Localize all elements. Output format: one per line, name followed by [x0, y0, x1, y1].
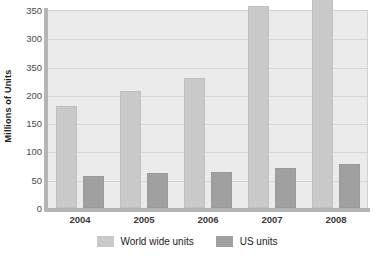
- bar-group: [112, 10, 176, 208]
- y-axis-tick-labels: 050100150200350300350: [16, 0, 46, 212]
- x-axis-tick: 2006: [197, 214, 218, 225]
- bar-chart-figure: Millions of Units 050100150200350300350 …: [0, 0, 374, 256]
- y-axis-tick: 300: [26, 33, 42, 44]
- y-axis-title: Millions of Units: [0, 0, 16, 212]
- bar: [275, 168, 296, 208]
- bar-group: [48, 10, 112, 208]
- y-axis-tick: 350: [26, 5, 42, 16]
- legend-label: World wide units: [121, 236, 194, 247]
- bar: [120, 91, 141, 208]
- y-axis-tick: 50: [31, 174, 42, 185]
- bars-layer: [48, 10, 368, 208]
- legend-item: US units: [216, 236, 278, 247]
- bar: [248, 6, 269, 208]
- y-axis-tick: 350: [26, 61, 42, 72]
- bar-group: [176, 10, 240, 208]
- bar: [312, 0, 333, 208]
- x-axis-tick: 2004: [69, 214, 90, 225]
- x-axis-tick: 2005: [133, 214, 154, 225]
- bar: [339, 164, 360, 208]
- x-axis-tick-labels: 20042005200620072008: [48, 214, 368, 230]
- legend-swatch: [216, 236, 233, 247]
- y-axis-tick: 100: [26, 146, 42, 157]
- bar: [184, 78, 205, 208]
- y-axis-tick: 200: [26, 89, 42, 100]
- bar-group: [240, 10, 304, 208]
- y-axis-tick: 0: [37, 203, 42, 214]
- legend-label: US units: [240, 236, 278, 247]
- legend-swatch: [97, 236, 114, 247]
- bar: [147, 173, 168, 208]
- bar: [56, 106, 77, 208]
- bar: [83, 176, 104, 208]
- x-axis-tick: 2007: [261, 214, 282, 225]
- y-axis-title-label: Millions of Units: [3, 70, 13, 143]
- x-axis-line: [44, 208, 370, 212]
- bar: [211, 172, 232, 208]
- bar-group: [304, 10, 368, 208]
- y-axis-tick: 150: [26, 118, 42, 129]
- legend-item: World wide units: [97, 236, 194, 247]
- x-axis-tick: 2008: [325, 214, 346, 225]
- chart-legend: World wide unitsUS units: [0, 236, 374, 247]
